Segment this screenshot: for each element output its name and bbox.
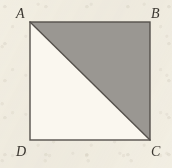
vertex-label-b: B xyxy=(151,7,160,21)
geometry-figure: A B C D xyxy=(0,0,172,168)
vertex-label-a: A xyxy=(16,7,25,21)
square-diagonal-diagram xyxy=(0,0,172,168)
vertex-label-c: C xyxy=(151,145,160,159)
vertex-label-d: D xyxy=(16,145,26,159)
